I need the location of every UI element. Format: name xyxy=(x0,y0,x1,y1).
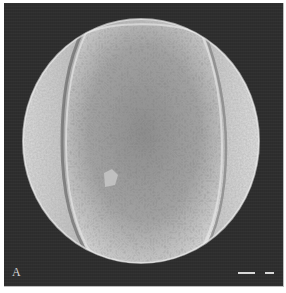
micrograph-frame: A xyxy=(4,3,284,287)
scale-bar-long xyxy=(238,272,255,274)
panel-label: A xyxy=(12,265,21,280)
pollen-grain-image xyxy=(4,3,283,286)
scale-bar-short xyxy=(265,272,274,274)
mesocolpium xyxy=(66,24,222,265)
